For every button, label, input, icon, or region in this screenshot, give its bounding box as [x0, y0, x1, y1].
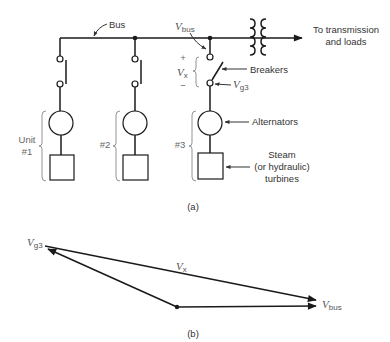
breaker-terminal-bottom [57, 81, 63, 87]
unit-2-label: #2 [100, 139, 111, 150]
bus-pointer [94, 24, 107, 36]
vx-phasor [45, 246, 316, 300]
alternator-icon [198, 111, 222, 135]
breakers-label: Breakers [250, 64, 288, 75]
unit-3-label: #3 [175, 139, 186, 150]
unit-brace [39, 111, 46, 181]
alternators-label: Alternators [252, 116, 298, 127]
turbines-label-line2: (or hydraulic) [254, 161, 309, 172]
vbus-phasor [177, 306, 316, 307]
unit-1-label-line2: #1 [22, 146, 33, 157]
vg3-pointer [215, 84, 231, 85]
unit-3: #3 + Vx − Vg3 [175, 38, 249, 181]
vx-brace [193, 57, 199, 87]
caption-a: (a) [187, 201, 199, 212]
destination-label-line1: To transmission [313, 24, 379, 35]
minus-sign: − [180, 80, 186, 91]
generator-bus-diagram: Bus Vbus To transmission and loads Unit [0, 0, 390, 342]
unit-brace [189, 111, 196, 181]
breaker-terminal-top [132, 56, 138, 62]
breaker-terminal-bottom [132, 81, 138, 87]
turbine-icon [123, 155, 148, 180]
vx-label-b: Vx [176, 260, 187, 274]
vbus-label-a: Vbus [175, 20, 195, 34]
vg3-label-b: Vg3 [27, 236, 43, 250]
turbines-label-line3: turbines [265, 173, 299, 184]
turbines-label-line1: Steam [268, 149, 296, 160]
phasor-origin [175, 305, 179, 309]
part-b: Vg3 Vx Vbus (b) [27, 236, 342, 339]
unit-1: Unit #1 [19, 38, 74, 181]
alternator-icon [49, 111, 73, 135]
plus-sign: + [180, 52, 186, 63]
unit-brace [113, 111, 120, 181]
vg3-phasor [48, 249, 177, 307]
unit-2: #2 [100, 38, 148, 181]
caption-b: (b) [187, 328, 199, 339]
breaker-terminal-top [57, 56, 63, 62]
breaker-terminal-bottom [207, 80, 213, 86]
turbine-icon [50, 155, 74, 180]
vg3-label-a: Vg3 [233, 78, 249, 92]
vbus-pointer [190, 33, 206, 49]
alternator-icon [123, 111, 147, 135]
vbus-label-b: Vbus [322, 298, 342, 312]
breaker-blade [212, 62, 223, 80]
destination-label-line2: and loads [325, 36, 366, 47]
part-a: Bus Vbus To transmission and loads Unit [19, 19, 379, 212]
bus-label: Bus [109, 19, 126, 30]
breaker-terminal-top [207, 54, 213, 60]
vx-label-a: Vx [177, 66, 188, 80]
turbine-icon [198, 153, 223, 179]
unit-1-label-line1: Unit [19, 134, 36, 145]
transformer-icon [250, 19, 266, 55]
